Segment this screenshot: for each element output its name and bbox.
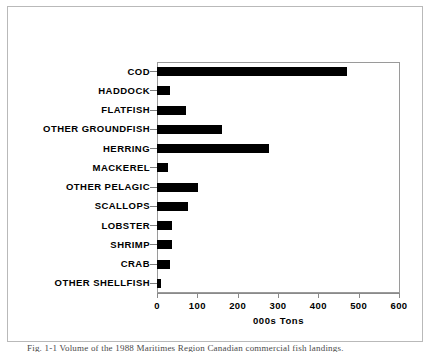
bar-track bbox=[157, 140, 400, 158]
bar bbox=[157, 67, 347, 76]
category-label: HERRING bbox=[0, 144, 150, 154]
bar-track bbox=[157, 121, 400, 139]
bar-track bbox=[157, 217, 400, 235]
category-label: CRAB bbox=[0, 259, 150, 269]
y-axis-tick bbox=[150, 283, 157, 284]
bar bbox=[157, 106, 186, 115]
bar-row: OTHER SHELLFISH bbox=[0, 275, 400, 293]
y-axis-tick bbox=[150, 187, 157, 188]
x-axis-tick bbox=[399, 293, 400, 298]
bar-row: OTHER GROUNDFISH bbox=[0, 121, 400, 139]
bar-track bbox=[157, 159, 400, 177]
y-axis-tick bbox=[150, 71, 157, 72]
bar-row: COD bbox=[0, 63, 400, 81]
x-axis-tick-label: 200 bbox=[229, 300, 246, 311]
bar-row: SHRIMP bbox=[0, 236, 400, 254]
bar-track bbox=[157, 198, 400, 216]
bar bbox=[157, 183, 198, 192]
bar-row: MACKEREL bbox=[0, 159, 400, 177]
bar-row: LOBSTER bbox=[0, 217, 400, 235]
bar-track bbox=[157, 178, 400, 196]
category-label: HADDOCK bbox=[0, 86, 150, 96]
x-axis-tick-label: 400 bbox=[310, 300, 327, 311]
x-axis-tick bbox=[157, 293, 158, 298]
y-axis-tick bbox=[150, 244, 157, 245]
bar bbox=[157, 240, 172, 249]
y-axis-tick bbox=[150, 264, 157, 265]
x-axis-tick-label: 100 bbox=[189, 300, 206, 311]
y-axis-tick bbox=[150, 206, 157, 207]
category-label: FLATFISH bbox=[0, 105, 150, 115]
bar bbox=[157, 86, 170, 95]
category-label: COD bbox=[0, 67, 150, 77]
x-axis-tick-label: 0 bbox=[154, 300, 160, 311]
bar-row: HADDOCK bbox=[0, 82, 400, 100]
x-axis-tick-label: 300 bbox=[269, 300, 286, 311]
y-axis-tick bbox=[150, 167, 157, 168]
category-label: OTHER SHELLFISH bbox=[0, 278, 150, 288]
figure-caption: Fig. 1-1 Volume of the 1988 Maritimes Re… bbox=[27, 343, 427, 352]
x-axis-title: 000s Tons bbox=[157, 315, 400, 326]
bar bbox=[157, 144, 269, 153]
x-axis-tick bbox=[318, 293, 319, 298]
x-axis-tick bbox=[238, 293, 239, 298]
bar-row: HERRING bbox=[0, 140, 400, 158]
x-axis-tick bbox=[359, 293, 360, 298]
category-label: MACKEREL bbox=[0, 163, 150, 173]
bar bbox=[157, 163, 168, 172]
x-axis-tick-labels: 0100200300400500600 bbox=[157, 300, 400, 312]
y-axis-tick bbox=[150, 110, 157, 111]
category-label: SCALLOPS bbox=[0, 201, 150, 211]
y-axis-tick bbox=[150, 225, 157, 226]
category-label: OTHER PELAGIC bbox=[0, 182, 150, 192]
x-axis-tick-label: 600 bbox=[390, 300, 407, 311]
x-axis-tick-label: 500 bbox=[350, 300, 367, 311]
bar-rows: CODHADDOCKFLATFISHOTHER GROUNDFISHHERRIN… bbox=[0, 62, 400, 293]
bar bbox=[157, 221, 172, 230]
bar-track bbox=[157, 255, 400, 273]
category-label: OTHER GROUNDFISH bbox=[0, 124, 150, 134]
bar-row: OTHER PELAGIC bbox=[0, 178, 400, 196]
y-axis-tick bbox=[150, 148, 157, 149]
bar-row: SCALLOPS bbox=[0, 198, 400, 216]
category-label: SHRIMP bbox=[0, 240, 150, 250]
y-axis-tick bbox=[150, 129, 157, 130]
bar-track bbox=[157, 63, 400, 81]
bar bbox=[157, 279, 161, 288]
bar-row: FLATFISH bbox=[0, 101, 400, 119]
bar-track bbox=[157, 82, 400, 100]
bar-track bbox=[157, 101, 400, 119]
y-axis-tick bbox=[150, 90, 157, 91]
horizontal-bar-chart: CODHADDOCKFLATFISHOTHER GROUNDFISHHERRIN… bbox=[0, 0, 432, 352]
bar-track bbox=[157, 275, 400, 293]
bar bbox=[157, 260, 170, 269]
category-label: LOBSTER bbox=[0, 221, 150, 231]
x-axis-tick bbox=[278, 293, 279, 298]
bar-track bbox=[157, 236, 400, 254]
bar-row: CRAB bbox=[0, 255, 400, 273]
bar bbox=[157, 202, 188, 211]
bar bbox=[157, 125, 222, 134]
x-axis-tick bbox=[197, 293, 198, 298]
x-axis-ticks bbox=[157, 293, 400, 298]
